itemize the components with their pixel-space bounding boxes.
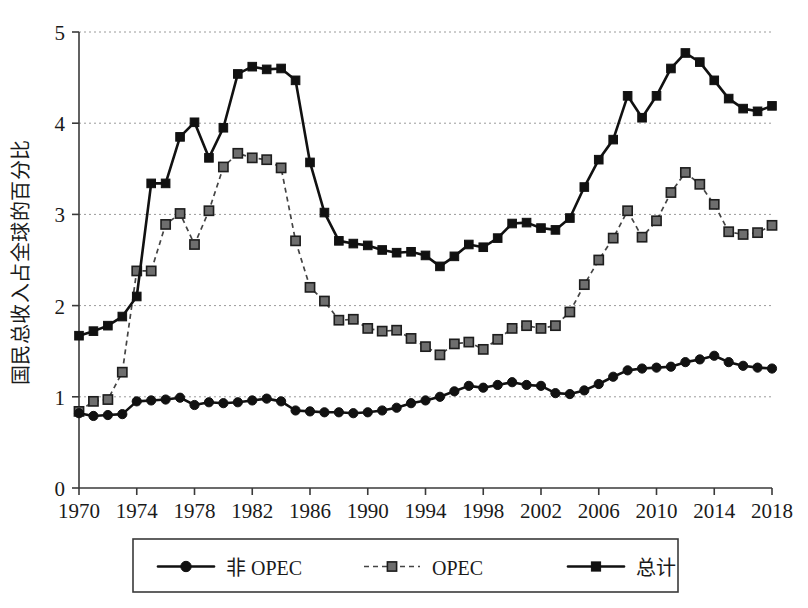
data-point [349,315,358,324]
data-point [378,327,387,336]
y-tick-label-4: 4 [55,112,66,136]
data-point [89,327,98,336]
x-tick-label-1974: 1974 [116,499,159,523]
data-point [465,240,474,249]
data-point [522,218,531,227]
data-point [609,135,618,144]
data-point [421,251,430,260]
data-point [334,316,343,325]
data-point [176,133,185,142]
data-point [551,226,560,235]
x-tick-label-2010: 2010 [636,499,678,523]
data-point [623,206,632,215]
data-point [594,155,603,164]
data-point [320,208,329,217]
data-point [132,397,141,406]
data-point [652,92,661,101]
data-point [536,324,545,333]
data-point [768,102,777,111]
data-point [623,366,632,375]
data-point [277,163,286,172]
data-point [118,410,127,419]
x-tick-label-1998: 1998 [462,499,504,523]
data-point [537,224,546,233]
data-point [710,351,719,360]
data-point [580,280,589,289]
data-point [724,94,733,103]
data-point [667,64,676,73]
data-point [378,406,387,415]
data-point [464,381,473,390]
data-point [219,123,228,132]
data-point [450,339,459,348]
data-point [436,262,445,271]
data-point [175,393,184,402]
legend-label-1: OPEC [432,557,483,579]
chart-legend: 非 OPECOPEC总计 [133,539,678,592]
data-point [175,209,184,218]
y-tick-label-3: 3 [55,203,66,227]
data-point [363,408,372,417]
legend-label-0: 非 OPEC [226,557,302,579]
legend-marker-square-dark-icon [591,562,600,571]
data-point [392,326,401,335]
data-point [233,398,242,407]
data-point [190,118,199,127]
data-point [479,243,488,252]
data-point [450,252,459,261]
data-point [334,408,343,417]
data-point [739,104,748,113]
data-point [666,188,675,197]
data-point [551,389,560,398]
data-point [594,379,603,388]
legend-marker-square-gray-icon [387,562,396,571]
data-point [248,396,257,405]
y-axis-label-text: 国民总收入占全球的百分比 [10,139,32,385]
data-point [666,362,675,371]
y-tick-label-0: 0 [55,477,66,501]
x-tick-label-1986: 1986 [289,499,331,523]
data-point [161,220,170,229]
data-point [204,398,213,407]
legend-item-0[interactable]: 非 OPEC [158,557,302,579]
series-layer [74,49,776,421]
data-point [435,350,444,359]
data-point [392,403,401,412]
x-tick-label-2006: 2006 [578,499,620,523]
data-point [89,411,98,420]
data-point [435,392,444,401]
data-point [493,380,502,389]
data-point [464,337,473,346]
data-point [147,396,156,405]
data-point [696,58,705,67]
data-point [767,364,776,373]
chart-svg: 012345 197019741978198219861990199419982… [0,0,808,608]
data-point [291,406,300,415]
legend-marker-circle-icon [181,561,191,571]
data-point [305,283,314,292]
data-point [406,399,415,408]
data-point [147,266,156,275]
data-point [637,233,646,242]
data-point [508,378,517,387]
data-point [508,324,517,333]
data-point [536,381,545,390]
data-point [262,394,271,403]
data-point [262,155,271,164]
data-point [565,307,574,316]
y-tick-label-1: 1 [55,386,66,410]
data-point [522,321,531,330]
data-point [349,239,358,248]
legend-item-2[interactable]: 总计 [568,557,676,579]
data-point [363,241,372,250]
legend-item-1[interactable]: OPEC [364,557,483,579]
data-point [479,345,488,354]
data-point [335,237,344,246]
x-tick-label-1982: 1982 [231,499,273,523]
x-tick-labels: 1970197419781982198619901994199820022006… [58,499,793,523]
data-point [724,358,733,367]
data-point [594,255,603,264]
data-point [204,206,213,215]
data-point [609,372,618,381]
y-tick-labels: 012345 [55,21,66,501]
